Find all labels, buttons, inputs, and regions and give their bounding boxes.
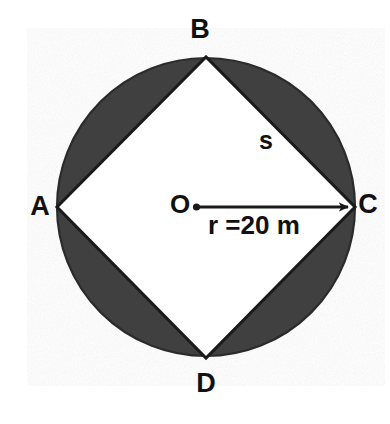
vertex-label-d: D xyxy=(196,368,216,398)
geometry-figure: B A C D s O r =20 m xyxy=(0,0,390,424)
circle-square-diagram: B A C D s O r =20 m xyxy=(0,0,390,424)
vertex-label-c: C xyxy=(358,189,378,219)
center-label-o: O xyxy=(170,189,190,219)
vertex-label-b: B xyxy=(190,14,210,44)
vertex-label-a: A xyxy=(30,191,50,221)
radius-measurement-label: r =20 m xyxy=(208,210,300,240)
center-point-dot xyxy=(193,203,200,210)
side-length-label-s: s xyxy=(259,126,273,154)
